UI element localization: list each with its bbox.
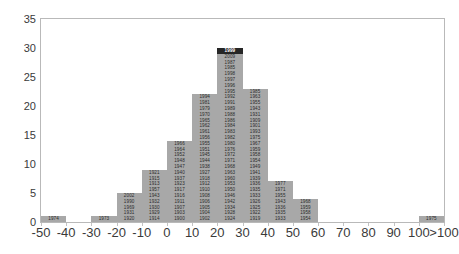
histogram-bar[interactable]: 1919192219251926193319351936193919411949… [243, 89, 268, 222]
histogram-bar[interactable]: 1973 [91, 216, 116, 222]
histogram-cell: 1924 [217, 216, 242, 222]
x-axis-tick-label: -20 [107, 225, 126, 240]
histogram-cell: 1914 [142, 216, 167, 222]
histogram-bar[interactable]: 1900190319071911191619171923193719401947… [167, 141, 192, 222]
x-axis-tick-label: 50 [286, 225, 300, 240]
y-axis-tick-label: 25 [2, 71, 36, 83]
histogram-bar[interactable]: 1933193519361943195519711977 [268, 181, 293, 222]
histogram-bar[interactable]: 1974 [41, 216, 66, 222]
y-axis-tick-label: 30 [2, 42, 36, 54]
x-axis-tick-label: -30 [82, 225, 101, 240]
x-axis-tick-label: 20 [210, 225, 224, 240]
histogram-cell: 1920 [117, 216, 142, 222]
x-axis-tick-label: -40 [57, 225, 76, 240]
histogram-bar[interactable]: 1954195819591968 [293, 199, 318, 222]
histogram-cell: 1973 [91, 216, 116, 222]
y-axis-tick-label: 15 [2, 129, 36, 141]
x-axis-tick-label: -10 [132, 225, 151, 240]
histogram-bar[interactable]: 1902190419051906190819101912191819271938… [192, 94, 217, 222]
histogram-cell: 1954 [293, 216, 318, 222]
plot-area: 1974197319201931196919902002191419291930… [41, 19, 444, 222]
x-axis-tick-label: -50 [32, 225, 51, 240]
histogram-cell: 1919 [243, 216, 268, 222]
histogram-bar[interactable]: 1924192819341942194619501953196019631968… [217, 48, 242, 222]
histogram-bar[interactable]: 191419291930193219431957191319151921 [142, 170, 167, 222]
histogram-bar[interactable]: 1975 [419, 216, 444, 222]
x-axis-tick-label: >100 [429, 225, 458, 240]
x-axis: -50-40-30-20-100102030405060708090100>10… [0, 223, 452, 254]
histogram-cell: 1902 [192, 216, 217, 222]
y-axis-tick-label: 35 [2, 13, 36, 25]
histogram-bar[interactable]: 19201931196919902002 [117, 193, 142, 222]
y-axis-tick-label: 20 [2, 100, 36, 112]
x-axis-tick-label: 80 [361, 225, 375, 240]
x-axis-tick-label: 70 [336, 225, 350, 240]
histogram-cell: 1974 [41, 216, 66, 222]
y-axis-tick-label: 5 [2, 187, 36, 199]
histogram-cell: 1975 [419, 216, 444, 222]
histogram-cell: 1900 [167, 216, 192, 222]
x-axis-tick-label: 100 [408, 225, 430, 240]
y-axis: 05101520253035 [0, 0, 36, 254]
x-axis-tick-label: 0 [163, 225, 170, 240]
x-axis-tick-label: 40 [260, 225, 274, 240]
x-axis-tick-label: 10 [185, 225, 199, 240]
y-axis-tick-label: 10 [2, 158, 36, 170]
histogram-cell: 1933 [268, 216, 293, 222]
x-axis-tick-label: 90 [386, 225, 400, 240]
x-axis-tick-label: 30 [235, 225, 249, 240]
x-axis-tick-label: 60 [311, 225, 325, 240]
